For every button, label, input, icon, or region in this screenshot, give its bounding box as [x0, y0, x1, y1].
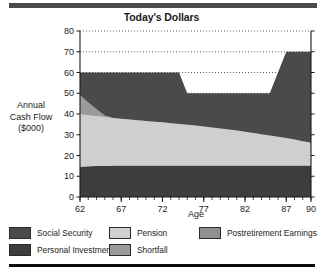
ytick-label-40: 40 — [64, 109, 74, 119]
ytick-label-60: 60 — [64, 68, 74, 78]
legend-personal-investments[interactable]: Personal Investments — [9, 241, 109, 258]
legend-shortfall[interactable]: Shortfall — [109, 241, 199, 258]
ytick-label-30: 30 — [64, 130, 74, 140]
ytick-label-80: 80 — [64, 26, 74, 36]
stacked-area-plot: 0102030405060708062677277828790 — [0, 0, 323, 215]
legend-postretirement-earnings[interactable]: Postretirement Earnings — [199, 224, 319, 241]
legend-spacer — [199, 241, 319, 258]
legend-row-1: Social Security Pension Postretirement E… — [9, 224, 319, 241]
legend-label-shortfall: Shortfall — [137, 245, 168, 255]
area-personal-investments — [80, 165, 311, 197]
ytick-label-0: 0 — [69, 192, 74, 202]
x-axis-label: Age — [80, 209, 312, 219]
ytick-label-10: 10 — [64, 171, 74, 181]
legend-swatch-pension — [109, 227, 131, 239]
legend-swatch-personal-investments — [9, 244, 31, 256]
bottom-rule — [9, 264, 315, 267]
legend-row-2: Personal Investments Shortfall — [9, 241, 319, 258]
ytick-label-50: 50 — [64, 88, 74, 98]
legend-label-social-security: Social Security — [37, 228, 92, 238]
legend-social-security[interactable]: Social Security — [9, 224, 109, 241]
legend-label-pension: Pension — [137, 228, 167, 238]
ytick-label-70: 70 — [64, 47, 74, 57]
legend-pension[interactable]: Pension — [109, 224, 199, 241]
legend-swatch-postretirement-earnings — [199, 227, 221, 239]
chart-figure: Today's Dollars Annual Cash Flow ($000) … — [0, 0, 323, 273]
legend-swatch-social-security — [9, 227, 31, 239]
legend-label-postretirement-earnings: Postretirement Earnings — [227, 228, 317, 238]
chart-legend: Social Security Pension Postretirement E… — [9, 224, 319, 260]
ytick-label-20: 20 — [64, 151, 74, 161]
legend-swatch-shortfall — [109, 244, 131, 256]
legend-label-personal-investments: Personal Investments — [37, 245, 118, 255]
